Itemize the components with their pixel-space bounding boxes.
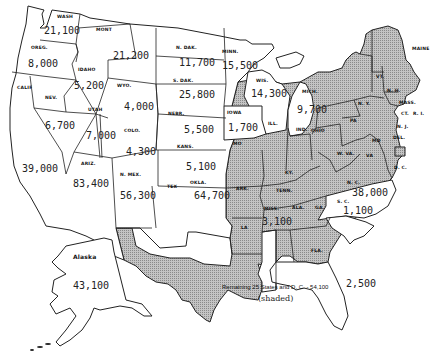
- dc-box: [395, 147, 405, 156]
- label-nebr: NEBR.: [168, 111, 185, 116]
- value-idaho: 5,200: [74, 80, 104, 91]
- value-mich: 9,700: [297, 104, 327, 115]
- label-kans: KANS.: [177, 144, 194, 149]
- value-oreg: 8,000: [28, 58, 58, 69]
- label-ark: ARK.: [236, 186, 249, 191]
- label-nmex: N. MEX.: [120, 172, 141, 177]
- label-miss: MISS.: [264, 206, 279, 211]
- label-okla: OKLA.: [190, 180, 206, 185]
- label-nh: N. H.: [387, 88, 401, 93]
- label-colo: COLO.: [124, 128, 140, 133]
- aleutian-islands: [30, 343, 51, 351]
- label-utah: UTAH: [88, 107, 102, 112]
- label-va: VA: [366, 153, 373, 158]
- label-ariz: ARIZ.: [81, 161, 96, 166]
- label-ga: GA.: [315, 205, 325, 210]
- value-nmex: 56,300: [120, 190, 156, 201]
- label-pa: PA: [350, 118, 357, 123]
- label-oreg: OREG.: [31, 45, 48, 50]
- label-mont: MONT: [96, 27, 112, 32]
- value-nc: 38,000: [352, 187, 388, 198]
- value-ndak: 11,700: [179, 57, 215, 68]
- label-ny: N. Y.: [358, 101, 370, 106]
- label-dc: D. C.: [394, 165, 407, 170]
- label-ohio: OHIO: [311, 128, 325, 133]
- label-tex: TEX: [167, 184, 177, 189]
- value-alaska: 43,100: [73, 280, 109, 291]
- label-maine: MAINE: [412, 46, 429, 51]
- label-wash: WASH: [57, 14, 73, 19]
- value-wyo: 4,000: [124, 101, 154, 112]
- label-vt: VT.: [376, 74, 384, 79]
- label-nc: N. C.: [347, 180, 360, 185]
- label-md: MD: [372, 138, 381, 143]
- label-wva: W. VA.: [337, 151, 355, 156]
- value-iowa: 1,700: [228, 122, 258, 133]
- label-del: DEL.: [393, 135, 405, 140]
- value-sc: 1,100: [343, 205, 373, 216]
- label-sdak: S. DAK.: [173, 78, 193, 83]
- label-calif: CALIF: [17, 85, 32, 90]
- label-la: LA: [241, 225, 248, 230]
- label-tenn: TENN.: [276, 188, 292, 193]
- value-miss: 3,100: [262, 216, 292, 227]
- label-nev: NEV.: [45, 95, 57, 100]
- value-wash: 21,100: [44, 25, 80, 36]
- label-alaska: Alaska: [73, 253, 97, 260]
- value-mont: 21,200: [113, 50, 149, 61]
- label-mass: MASS.: [399, 100, 416, 105]
- legend-remaining-states: Remaining 25 States and D. C. - 54,100: [222, 284, 328, 290]
- label-mo: MO: [233, 141, 242, 146]
- label-fla: FLA.: [311, 248, 323, 253]
- label-conn: CT.: [401, 111, 409, 116]
- value-okla: 64,700: [194, 190, 230, 201]
- label-ndak: N. DAK.: [176, 45, 197, 50]
- label-ri: R. I.: [413, 111, 424, 116]
- label-mich: MICH.: [302, 89, 318, 94]
- label-ind: IND.: [296, 127, 308, 132]
- label-wis: WIS.: [256, 78, 268, 83]
- label-ill: ILL.: [268, 121, 278, 126]
- label-minn: MINN.: [222, 49, 238, 54]
- label-iowa: IOWA: [227, 110, 242, 115]
- value-wis: 14,300: [251, 88, 287, 99]
- legend-shaded-note: (shaded): [258, 294, 293, 303]
- value-calif: 39,000: [22, 163, 58, 174]
- value-sdak: 25,800: [179, 89, 215, 100]
- label-ala: ALA.: [292, 205, 304, 210]
- value-minn: 15,500: [222, 60, 258, 71]
- value-kans: 5,100: [186, 161, 216, 172]
- label-wyo: WYO.: [117, 83, 131, 88]
- label-sc: S. C.: [337, 199, 350, 204]
- value-colo: 4,300: [126, 146, 156, 157]
- value-fla: 2,500: [346, 278, 376, 289]
- label-idaho: IDAHO: [78, 67, 95, 72]
- value-ariz: 83,400: [73, 178, 109, 189]
- value-nebr: 5,500: [184, 124, 214, 135]
- value-utah: 7,000: [86, 130, 116, 141]
- label-nj: N. J.: [397, 124, 408, 129]
- label-ky: KY.: [285, 170, 293, 175]
- value-nev: 6,700: [45, 120, 75, 131]
